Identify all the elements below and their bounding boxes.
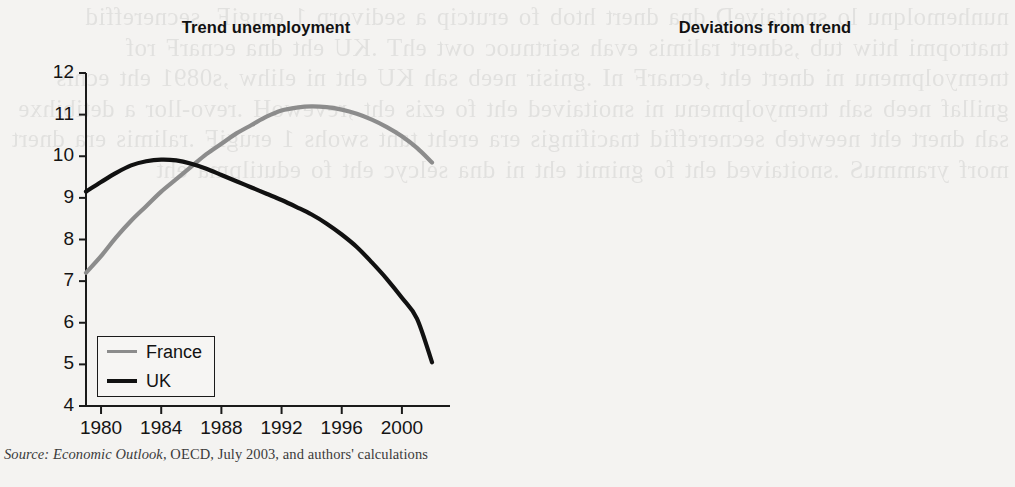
figure: Trend unemployment 456789101112198019841… [0,0,1015,487]
chart-panel-trend-unemployment: Trend unemployment 456789101112198019841… [0,0,510,440]
chart-title-deviations-from-trend: Deviations from trend [505,18,1015,37]
legend-swatch-france-icon [107,350,137,353]
series-line-uk [86,160,432,363]
legend-item-france: France [98,337,214,367]
legend-item-uk: UK [98,367,214,397]
chart-legend-trend-unemployment: FranceUK [97,336,215,397]
source-note: Source: Economic Outlook, OECD, July 200… [4,446,428,463]
legend-swatch-uk-icon [107,379,137,383]
legend-label: UK [146,372,171,390]
legend-label: France [146,343,202,361]
chart-canvas-trend-unemployment [0,0,510,440]
plot-area-deviations-from-trend: −4−3−2−10123198019841988199219962000Fran… [1010,0,1015,440]
plot-area-trend-unemployment: 456789101112198019841988199219962000Fran… [0,0,510,440]
chart-panel-deviations-from-trend: Deviations from trend −4−3−2−10123198019… [505,0,1015,440]
chart-canvas-deviations-from-trend [1010,0,1015,440]
source-note-publication: Source: Economic Outlook [4,446,163,462]
source-note-rest: , OECD, July 2003, and authors' calculat… [163,446,428,462]
